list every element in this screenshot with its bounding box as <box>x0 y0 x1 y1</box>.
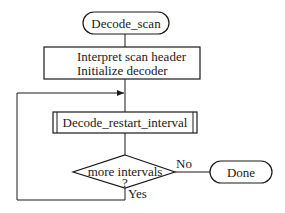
init-process-box: Interpret scan header Initialize decoder <box>44 47 200 79</box>
done-terminal: Done <box>210 161 272 183</box>
yes-label: Yes <box>128 186 147 201</box>
connector-yes-loop <box>17 93 125 200</box>
init-line-2: Initialize decoder <box>77 63 168 78</box>
init-line-1: Interpret scan header <box>77 49 187 64</box>
flowchart: Decode_scan Interpret scan header Initia… <box>0 0 285 213</box>
decision-diamond: more intervals ? <box>73 155 175 190</box>
subroutine-label: Decode_restart_interval <box>63 115 188 130</box>
start-label: Decode_scan <box>91 16 161 31</box>
done-label: Done <box>227 165 255 180</box>
subroutine-box: Decode_restart_interval <box>53 112 197 133</box>
start-terminal: Decode_scan <box>83 12 169 34</box>
no-label: No <box>176 156 192 171</box>
